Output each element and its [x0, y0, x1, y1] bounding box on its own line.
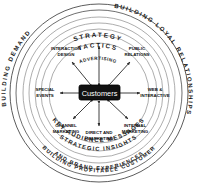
node-interaction-design-line1: INTERACTION [51, 46, 81, 51]
node-special-events-line1: SPECIAL [35, 87, 54, 92]
node-internal-marketing-line2: MARKETING [122, 129, 149, 134]
node-channel-marketing-line2: MARKETING [53, 129, 80, 134]
node-channel-marketing-line1: CHANNEL [55, 123, 77, 128]
node-interaction-design: INTERACTION DESIGN [51, 46, 81, 57]
arrow-internal-marketing [110, 102, 128, 119]
arrow-interaction-design [72, 62, 90, 84]
arc-label-tactics: TACTICS [77, 41, 119, 51]
node-direct-emarketing-line1: DIRECT AND [86, 130, 113, 135]
marketing-wheel-diagram: BUILDING DEMAND BUILDING LOYAL RELATIONS… [0, 0, 198, 186]
node-public-relations-line1: PUBLIC [129, 46, 146, 51]
diagram-canvas: BUILDING DEMAND BUILDING LOYAL RELATIONS… [0, 0, 198, 186]
arc-label-and-brand-experiences: AND BRAND EXPERIENCES [53, 150, 144, 171]
node-internal-marketing-line1: INTERNAL [124, 123, 147, 128]
node-internal-marketing: INTERNAL MARKETING [122, 123, 149, 134]
arrow-public-relations [110, 62, 130, 84]
center-box-label: Customers [82, 89, 118, 98]
node-direct-emarketing: DIRECT AND eMARKETING [84, 130, 114, 141]
node-public-relations-line2: RELATIONS [124, 52, 149, 57]
arc-label-strategy: STRATEGY [72, 31, 124, 43]
center-customers-node: Customers [79, 85, 120, 100]
arc-label-advertising: ADVERTISING [78, 56, 117, 64]
node-channel-marketing: CHANNEL MARKETING [53, 123, 80, 134]
node-web-interactive-line2: INTERACTIVE [140, 93, 169, 98]
node-interaction-design-line2: DESIGN [58, 52, 75, 57]
arrow-channel-marketing [73, 102, 90, 119]
node-direct-emarketing-line2: eMARKETING [84, 136, 114, 141]
node-public-relations: PUBLIC RELATIONS [124, 46, 149, 57]
node-special-events-line2: EVENTS [36, 93, 54, 98]
node-web-interactive: WEB & INTERACTIVE [140, 87, 169, 98]
node-special-events: SPECIAL EVENTS [35, 87, 54, 98]
node-web-interactive-line1: WEB & [148, 87, 163, 92]
